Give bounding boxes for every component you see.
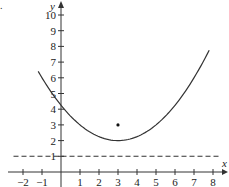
x-tick-label: 7	[191, 176, 197, 187]
x-tick-label: 5	[153, 176, 159, 187]
x-tick-label: 4	[134, 176, 140, 187]
y-tick-label: 8	[51, 40, 57, 52]
x-axis-arrow-icon	[222, 169, 228, 175]
x-tick-label: −1	[36, 176, 48, 187]
y-tick-label: 7	[51, 56, 57, 68]
y-tick-label: 3	[51, 119, 57, 131]
y-tick-label: 2	[51, 135, 57, 147]
x-tick-label: −2	[17, 176, 29, 187]
y-tick-label: 9	[51, 25, 57, 37]
axes	[8, 1, 228, 187]
axis-ticks: −2−11234567812345678910	[17, 9, 216, 187]
y-axis-label: y	[49, 0, 55, 12]
x-axis-label: x	[221, 157, 227, 169]
x-tick-label: 2	[96, 176, 102, 187]
x-tick-label: 3	[115, 176, 121, 187]
x-tick-label: 1	[77, 176, 83, 187]
parabola-curve	[38, 50, 209, 140]
parabola-chart: −2−11234567812345678910 x y	[0, 0, 229, 187]
y-axis-arrow-icon	[58, 1, 64, 8]
x-tick-label: 6	[172, 176, 178, 187]
focus-point	[116, 123, 119, 126]
y-tick-label: 6	[51, 72, 57, 84]
y-tick-label: 4	[51, 103, 57, 115]
plot-series	[14, 50, 221, 156]
x-tick-label: 8	[210, 176, 216, 187]
